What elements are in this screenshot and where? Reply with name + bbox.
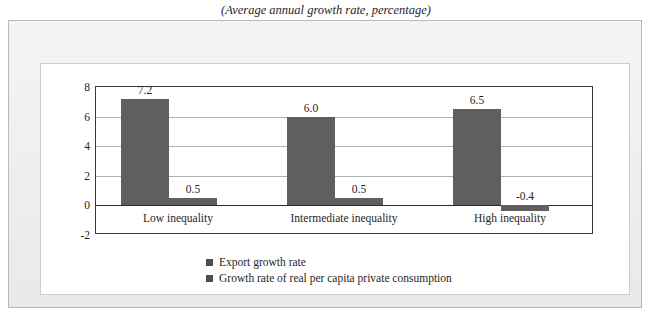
y-axis-tick-label: 0 [84, 199, 90, 211]
figure-outer-frame: Percentage 86420-27.20.56.00.56.5-0.4 Ex… [8, 20, 642, 308]
bar-value-label: 7.2 [138, 84, 152, 96]
gridline [96, 176, 592, 177]
y-axis-tick-label: 4 [84, 140, 90, 152]
legend-label: Export growth rate [219, 256, 306, 268]
bar [287, 117, 335, 206]
y-axis-tick-label: 8 [84, 81, 90, 93]
bar-value-label: 6.5 [470, 94, 484, 106]
bar [453, 109, 501, 205]
x-axis-category-label: Low inequality [143, 212, 213, 224]
bar-value-label: 0.5 [352, 183, 366, 195]
legend-label: Growth rate of real per capita private c… [219, 272, 452, 284]
y-axis-tick-label: -2 [80, 229, 90, 241]
y-axis-tick-label: 6 [84, 111, 90, 123]
legend-item-export-growth-rate: Export growth rate [206, 254, 452, 270]
legend-swatch-icon [206, 259, 213, 266]
bar [335, 198, 383, 205]
legend-swatch-icon [206, 275, 213, 282]
bar [121, 99, 169, 206]
bar-value-label: -0.4 [516, 190, 534, 202]
y-axis-tick-label: 2 [84, 170, 90, 182]
x-axis-category-label: Intermediate inequality [291, 212, 398, 224]
chart-legend: Export growth rate Growth rate of real p… [206, 254, 452, 286]
gridline [96, 117, 592, 118]
figure-caption: (Average annual growth rate, percentage) [0, 0, 652, 20]
bar-value-label: 0.5 [186, 183, 200, 195]
bar [501, 205, 549, 211]
gridline [96, 146, 592, 147]
chart-panel: Percentage 86420-27.20.56.00.56.5-0.4 Ex… [40, 63, 630, 295]
x-axis-category-label: High inequality [474, 212, 546, 224]
bar [169, 198, 217, 205]
legend-item-consumption-growth-rate: Growth rate of real per capita private c… [206, 270, 452, 286]
bar-value-label: 6.0 [304, 102, 318, 114]
